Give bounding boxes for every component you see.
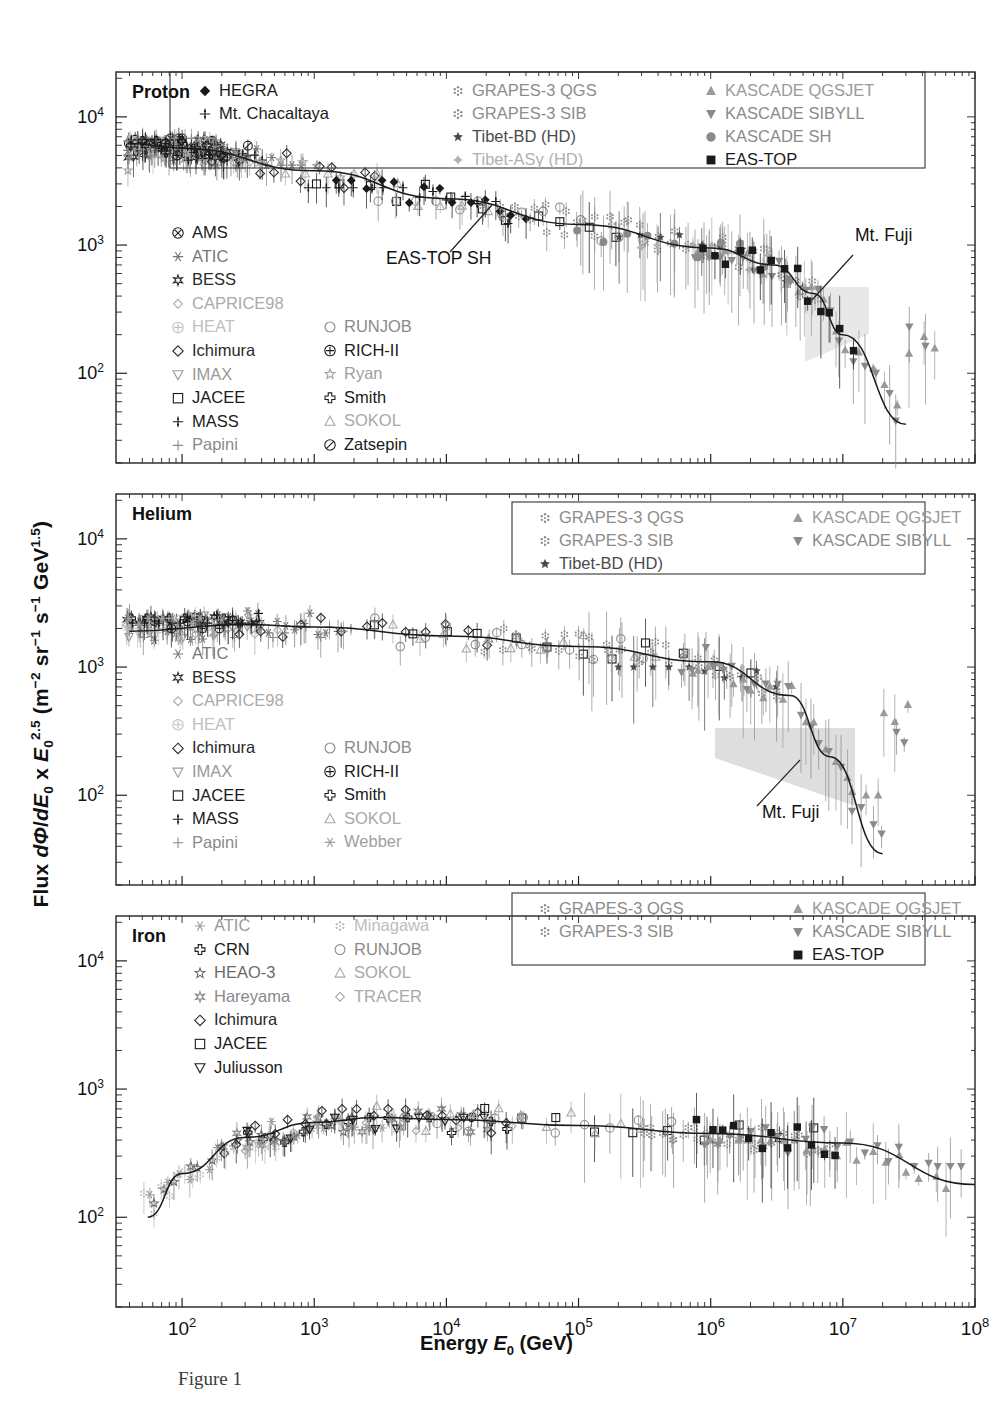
legend-label: GRAPES-3 QGS — [472, 81, 597, 99]
legend-entry: JACEE — [195, 1034, 267, 1052]
legend-label: RUNJOB — [344, 317, 412, 335]
legend-label: JACEE — [192, 388, 245, 406]
legend-entry: ATIC — [173, 247, 229, 265]
legend-label: RUNJOB — [354, 940, 422, 958]
legend-entry: Webber — [325, 832, 402, 850]
legend-label: HEAO-3 — [214, 963, 275, 981]
legend-entry: CRN — [195, 940, 250, 958]
legend-helium-left: ATICBESSCAPRICE98HEATIchimuraIMAXJACEEMA… — [173, 644, 284, 851]
legend-entry: GRAPES-3 SIB — [541, 531, 674, 549]
legend-iron-top: GRAPES-3 QGSGRAPES-3 SIBKASCADE QGSJETKA… — [512, 893, 961, 965]
x-axis-label-symbol: E — [493, 1332, 506, 1354]
legend-entry: Minagawa — [336, 916, 430, 934]
legend-label: HEAT — [192, 715, 235, 733]
fit-curve-iron — [148, 1118, 975, 1218]
legend-entry: Ichimura — [195, 1010, 278, 1028]
panel-title-proton: Proton — [132, 82, 190, 102]
legend-label: RICH-II — [344, 341, 399, 359]
legend-label: EAS-TOP — [812, 945, 884, 963]
legend-label: HEAT — [192, 317, 235, 335]
legend-entry: EAS-TOP — [794, 945, 885, 963]
legend-label: Smith — [344, 388, 386, 406]
y-tick-label: 103 — [77, 1077, 104, 1099]
annotation-label: EAS-TOP SH — [386, 248, 491, 268]
legend-entry: MASS — [173, 809, 239, 827]
legend-label: KASCADE SIBYLL — [725, 104, 864, 122]
legend-label: Ichimura — [192, 738, 256, 756]
legend-label: RICH-II — [344, 762, 399, 780]
legend-label: Webber — [344, 832, 402, 850]
legend-label: Papini — [192, 435, 238, 453]
legend-label: KASCADE SH — [725, 127, 831, 145]
panel-title-iron: Iron — [132, 926, 166, 946]
legend-entry: Papini — [173, 435, 238, 453]
legend-entry: KASCADE SH — [706, 127, 831, 145]
legend-entry: KASCADE SIBYLL — [793, 531, 951, 549]
legend-entry: HEAO-3 — [195, 963, 275, 981]
legend-label: JACEE — [192, 786, 245, 804]
legend-label: Ryan — [344, 364, 383, 382]
legend-label: Hareyama — [214, 987, 291, 1005]
legend-entry: RICH-II — [325, 341, 399, 359]
legend-label: GRAPES-3 SIB — [559, 922, 674, 940]
legend-label: CRN — [214, 940, 250, 958]
legend-entry: RUNJOB — [325, 317, 412, 335]
legend-entry: JACEE — [173, 388, 245, 406]
data-layer-iron — [140, 1093, 975, 1237]
legend-label: GRAPES-3 SIB — [472, 104, 587, 122]
legend-label: TRACER — [354, 987, 422, 1005]
legend-entry: ATIC — [173, 644, 229, 662]
legend-label: IMAX — [192, 762, 232, 780]
legend-entry: ATIC — [195, 916, 251, 934]
legend-label: SOKOL — [344, 411, 401, 429]
annotation-eas-top-sh-proton: EAS-TOP SH — [386, 205, 492, 268]
legend-entry: Mt. Chacaltaya — [200, 104, 330, 122]
legend-label: GRAPES-3 QGS — [559, 899, 684, 917]
legend-entry: MASS — [173, 412, 239, 430]
legend-label: ATIC — [192, 247, 228, 265]
legend-entry: BESS — [174, 668, 237, 686]
legend-entry: HEGRA — [200, 81, 278, 99]
legend-label: IMAX — [192, 365, 232, 383]
legend-label: Minagawa — [354, 916, 430, 934]
legend-label: KASCADE QGSJET — [812, 899, 961, 917]
legend-label: GRAPES-3 QGS — [559, 508, 684, 526]
legend-label: RUNJOB — [344, 738, 412, 756]
legend-entry: JACEE — [173, 786, 245, 804]
legend-proton-right: RUNJOBRICH-IIRyanSmithSOKOLZatsepin — [325, 317, 412, 453]
legend-label: Juliusson — [214, 1058, 283, 1076]
figure-caption: Figure 1 — [0, 1368, 420, 1390]
x-axis-label-sub: 0 — [507, 1343, 514, 1358]
panel-title-helium: Helium — [132, 504, 192, 524]
legend-helium-right: RUNJOBRICH-IISmithSOKOLWebber — [325, 738, 412, 850]
legend-label: KASCADE SIBYLL — [812, 531, 951, 549]
legend-entry: GRAPES-3 SIB — [541, 922, 674, 940]
legend-entry: IMAX — [173, 365, 232, 383]
legend-label: Ichimura — [214, 1010, 278, 1028]
legend-entry: TRACER — [336, 987, 422, 1005]
legend-label: CAPRICE98 — [192, 691, 284, 709]
legend-label: BESS — [192, 668, 236, 686]
legend-label: Tibet-ASγ (HD) — [472, 150, 583, 168]
legend-proton-left: AMSATICBESSCAPRICE98HEATIchimuraIMAXJACE… — [173, 223, 284, 453]
legend-label: KASCADE QGSJET — [812, 508, 961, 526]
legend-entry: KASCADE SIBYLL — [793, 922, 951, 940]
legend-label: ATIC — [214, 916, 250, 934]
legend-entry: KASCADE QGSJET — [793, 508, 961, 526]
legend-entry: KASCADE SIBYLL — [706, 104, 864, 122]
legend-entry: SOKOL — [335, 963, 411, 981]
annotation-label: Mt. Fuji — [855, 225, 912, 245]
x-axis-label-pre: Energy — [420, 1332, 493, 1354]
legend-entry: GRAPES-3 QGS — [541, 899, 684, 917]
legend-label: Ichimura — [192, 341, 256, 359]
legend-entry: Hareyama — [196, 987, 291, 1005]
mt-fuji-band-helium — [715, 728, 855, 806]
legend-label: KASCADE QGSJET — [725, 81, 874, 99]
legend-label: Smith — [344, 785, 386, 803]
legend-label: Zatsepin — [344, 435, 407, 453]
legend-entry: Zatsepin — [325, 435, 407, 453]
legend-label: KASCADE SIBYLL — [812, 922, 951, 940]
legend-entry: Ryan — [325, 364, 382, 382]
y-tick-label: 104 — [77, 949, 104, 971]
y-tick-label: 104 — [77, 105, 104, 127]
